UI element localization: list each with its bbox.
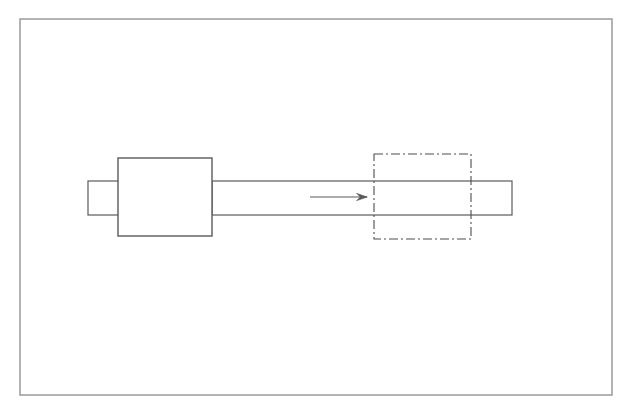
shaft — [212, 181, 512, 215]
technical-drawing-canvas — [0, 0, 631, 412]
main-block-body — [118, 158, 212, 236]
left-end-stub — [88, 181, 120, 215]
figure-root: Engineering-style 2D line drawing: a ste… — [0, 0, 631, 412]
